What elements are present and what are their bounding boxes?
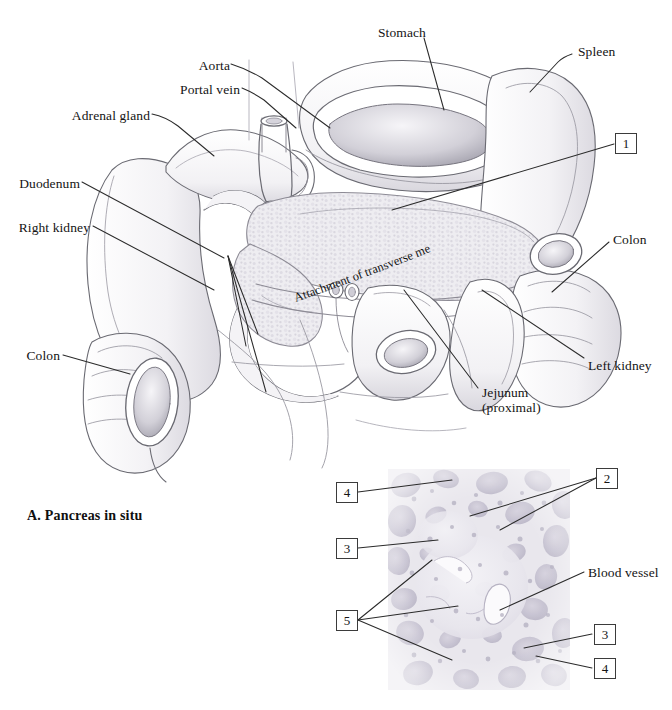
- label-jejunum-proximal: (proximal): [482, 400, 541, 415]
- label-stomach: Stomach: [378, 25, 426, 40]
- anatomy-number-box-1[interactable]: 1: [615, 133, 637, 154]
- histology-number-box-2[interactable]: 2: [596, 468, 618, 489]
- label-blood-vessel: Blood vessel: [588, 565, 659, 580]
- histology-number-box-5[interactable]: 5: [336, 610, 358, 631]
- label-aorta: Aorta: [118, 58, 230, 73]
- pancreas-in-situ-illustration: Attachment of transverse mesocolon: [0, 0, 672, 710]
- histology-number-box-4-bottom[interactable]: 4: [594, 658, 616, 679]
- label-duodenum: Duodenum: [0, 176, 80, 191]
- label-colon-left: Colon: [0, 348, 60, 363]
- histology-number-box-4-top[interactable]: 4: [336, 482, 358, 503]
- label-jejunum: Jejunum: [482, 385, 528, 400]
- label-left-kidney: Left kidney: [588, 358, 652, 373]
- pancreas-histology-micrograph: [388, 469, 570, 690]
- label-right-kidney: Right kidney: [0, 220, 90, 235]
- histology-number-box-3-upper[interactable]: 3: [336, 538, 358, 559]
- histology-number-box-3-lower[interactable]: 3: [594, 624, 616, 645]
- label-adrenal-gland: Adrenal gland: [28, 108, 150, 123]
- label-portal-vein: Portal vein: [108, 82, 240, 97]
- anatomy-plate: Attachment of transverse mesocolon: [0, 0, 672, 710]
- label-spleen: Spleen: [578, 44, 615, 59]
- label-colon-right: Colon: [613, 232, 647, 247]
- panel-a-caption: A. Pancreas in situ: [27, 508, 143, 524]
